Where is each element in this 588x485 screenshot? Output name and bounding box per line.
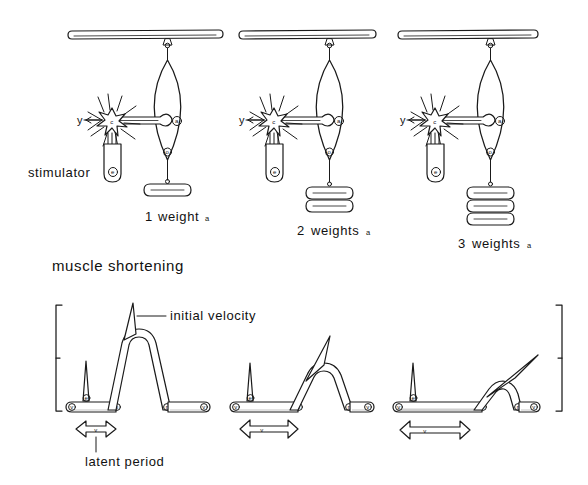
stimulus-artifact-2: e bbox=[247, 363, 254, 401]
panel-1-suffix: a bbox=[205, 214, 210, 223]
stimulus-input-2: y bbox=[239, 114, 264, 126]
contraction-ribbon-1 bbox=[108, 329, 171, 410]
electrode-2: e bbox=[266, 133, 283, 182]
support-bar-1 bbox=[68, 30, 223, 39]
latent-arrow-letter-3: v bbox=[423, 428, 427, 434]
insertion-letter-3: a bbox=[498, 118, 502, 124]
stimulus-center-letter-3: c bbox=[433, 119, 437, 125]
latent-arrow-letter-1: v bbox=[94, 427, 98, 433]
scale-bracket-left bbox=[56, 305, 62, 411]
baseline-start-letter-3: v bbox=[397, 404, 401, 410]
initial-velocity-label: initial velocity bbox=[170, 308, 256, 323]
muscle-body-2 bbox=[316, 60, 343, 160]
latent-period-arrow-1: v latent period bbox=[76, 421, 164, 469]
stimulus-artifact-3: e bbox=[410, 363, 417, 401]
muscle-body-1 bbox=[154, 60, 181, 160]
baseline-post-2: v bbox=[350, 402, 374, 412]
panel-2-count: 2 bbox=[297, 223, 305, 238]
baseline-pre-3: v bbox=[393, 402, 482, 412]
weight-hook-2 bbox=[328, 182, 332, 186]
trace-panel-2: e v s r v v bbox=[230, 336, 374, 438]
panel-1-unit: weight bbox=[157, 209, 199, 224]
panel-2-caption: 2 weights a bbox=[297, 223, 371, 238]
stimulus-center-letter-2: c bbox=[272, 119, 276, 125]
panel-3-count: 3 bbox=[458, 236, 466, 251]
electrode-3: e bbox=[427, 133, 444, 182]
latent-arrow-letter-2: v bbox=[260, 427, 264, 433]
baseline-pre-2: v bbox=[230, 402, 298, 412]
panel-3-suffix: a bbox=[527, 241, 532, 250]
panel-2-unit: weights bbox=[310, 223, 359, 238]
contraction-ribbon-2 bbox=[290, 363, 353, 410]
insertion-letter-1: a bbox=[175, 118, 179, 124]
latent-period-arrow-3: v bbox=[400, 421, 470, 439]
muscle-origin-marker-3: o bbox=[487, 148, 495, 156]
apparatus-panel-3: a o c y bbox=[398, 30, 538, 251]
stimulus-artifact-1: e bbox=[83, 361, 90, 401]
electrode-letter-1: e bbox=[111, 169, 115, 175]
weight-stack-3 bbox=[467, 187, 514, 225]
section-heading-muscle-shortening: muscle shortening bbox=[52, 257, 184, 274]
stimulator-label: stimulator bbox=[28, 165, 90, 180]
stimulus-input-3: y bbox=[400, 114, 425, 126]
panel-1-count: 1 bbox=[145, 209, 153, 224]
scale-bracket-right bbox=[556, 305, 562, 411]
artifact-letter-2: e bbox=[249, 395, 253, 401]
panel-1-caption: 1 weight a bbox=[145, 209, 210, 224]
support-bar-3 bbox=[398, 30, 538, 39]
trace-panel-3: e v s r v v bbox=[393, 355, 540, 439]
baseline-start-letter-1: v bbox=[70, 404, 74, 410]
apparatus-panel-2: a o c y e bbox=[239, 30, 376, 238]
stimulus-input-letter-1: y bbox=[77, 114, 83, 126]
clamp-2 bbox=[325, 39, 334, 60]
stimulus-input-letter-2: y bbox=[239, 114, 245, 126]
weight-stack-2 bbox=[306, 187, 353, 212]
trace-panel-1: e v s r v bbox=[66, 303, 256, 469]
artifact-letter-1: e bbox=[85, 395, 89, 401]
panel-2-suffix: a bbox=[366, 228, 371, 237]
stimulus-input-1: y bbox=[77, 114, 102, 126]
clamp-3 bbox=[486, 39, 495, 60]
stimulus-center-letter-1: c bbox=[110, 119, 114, 125]
latent-period-label: latent period bbox=[85, 454, 164, 469]
stimulus-input-letter-3: y bbox=[400, 114, 406, 126]
panel-3-caption: 3 weights a bbox=[458, 236, 532, 251]
latent-period-arrow-2: v bbox=[240, 420, 298, 438]
weight-hook-3 bbox=[489, 182, 493, 186]
initial-velocity-tangent-2 bbox=[306, 336, 330, 381]
electrode-1: e bbox=[104, 133, 121, 182]
artifact-letter-3: e bbox=[412, 395, 416, 401]
baseline-end-letter-3: v bbox=[532, 404, 536, 410]
origin-letter-2: o bbox=[328, 149, 332, 155]
baseline-post-3: v bbox=[519, 402, 540, 412]
weight-stack-1 bbox=[144, 184, 191, 196]
origin-letter-3: o bbox=[489, 149, 493, 155]
baseline-end-letter-1: v bbox=[202, 404, 206, 410]
muscle-origin-marker-2: o bbox=[326, 148, 334, 156]
origin-letter-1: o bbox=[166, 149, 170, 155]
electrode-letter-3: e bbox=[434, 169, 438, 175]
baseline-end-letter-2: v bbox=[366, 404, 370, 410]
muscle-shortening-figure: a o c y bbox=[0, 0, 588, 485]
insertion-letter-2: a bbox=[337, 118, 341, 124]
panel-3-unit: weights bbox=[471, 236, 520, 251]
electrode-letter-2: e bbox=[273, 169, 277, 175]
support-bar-2 bbox=[239, 30, 376, 39]
clamp-1 bbox=[163, 39, 172, 60]
muscle-origin-marker-1: o bbox=[164, 148, 172, 156]
apparatus-panel-1: a o c y bbox=[28, 30, 223, 224]
muscle-body-3 bbox=[477, 60, 504, 160]
baseline-post-1: v bbox=[168, 402, 210, 412]
baseline-start-letter-2: v bbox=[234, 404, 238, 410]
